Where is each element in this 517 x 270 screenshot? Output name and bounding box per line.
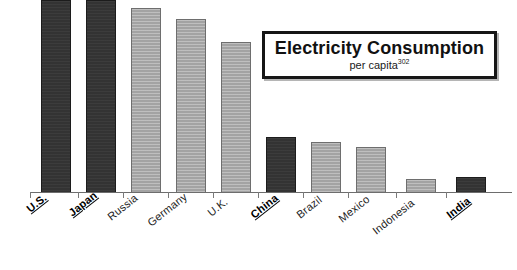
chart-subtitle-footnote: 302: [398, 59, 410, 66]
x-label-indonesia: Indonesia: [370, 197, 416, 237]
x-label-uk: U.K.: [205, 195, 230, 218]
x-axis-labels: U.S. Japan Russia Germany U.K. China Bra…: [0, 193, 517, 270]
bar-china[interactable]: [266, 137, 296, 193]
bar-japan[interactable]: [86, 0, 116, 193]
x-label-mexico: Mexico: [336, 193, 372, 225]
bar-indonesia[interactable]: [406, 179, 436, 193]
bar-us[interactable]: [41, 0, 71, 193]
bar-brazil[interactable]: [311, 142, 341, 193]
x-label-china: China: [248, 192, 280, 221]
chart-subtitle: per capita302: [350, 60, 410, 71]
x-label-brazil: Brazil: [294, 193, 324, 220]
bar-chart: U.S. Japan Russia Germany U.K. China Bra…: [0, 0, 517, 270]
x-label-us: U.S.: [24, 191, 49, 214]
chart-subtitle-text: per capita: [350, 59, 398, 71]
x-label-russia: Russia: [105, 192, 140, 223]
x-label-india: India: [444, 195, 472, 221]
bar-germany[interactable]: [176, 19, 206, 193]
bar-india[interactable]: [456, 177, 486, 193]
plot-area: [0, 0, 517, 193]
chart-title-box: Electricity Consumption per capita302: [262, 31, 497, 79]
x-label-germany: Germany: [145, 190, 189, 228]
bar-mexico[interactable]: [356, 147, 386, 193]
x-label-japan: Japan: [66, 189, 99, 219]
chart-title: Electricity Consumption: [275, 39, 484, 58]
bar-uk[interactable]: [221, 42, 251, 193]
bar-russia[interactable]: [131, 8, 161, 193]
